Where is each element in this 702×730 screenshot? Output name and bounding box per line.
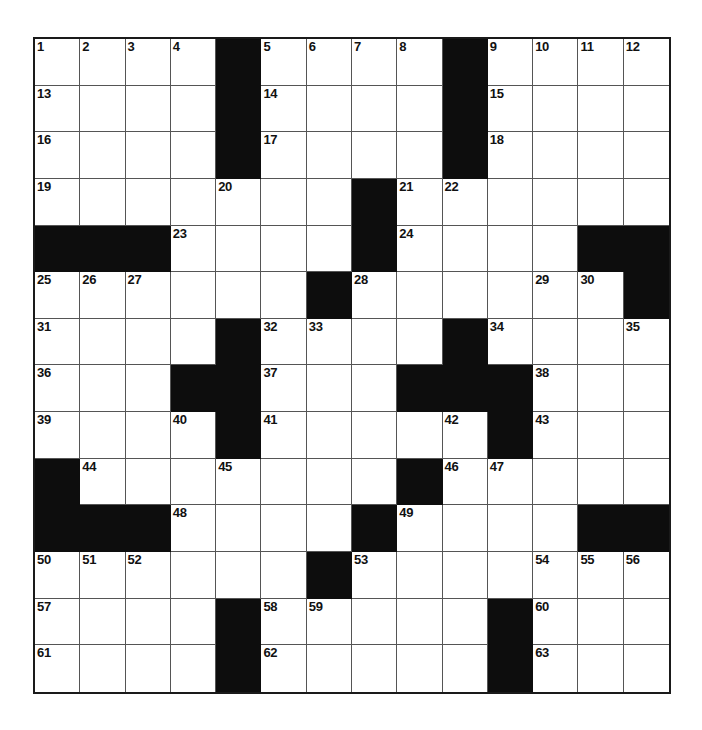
grid-cell[interactable]: 60: [533, 599, 578, 646]
grid-cell[interactable]: 15: [488, 86, 533, 133]
grid-cell[interactable]: 43: [533, 412, 578, 459]
grid-cell[interactable]: 6: [307, 39, 352, 86]
grid-cell[interactable]: [578, 132, 623, 179]
grid-cell[interactable]: 49: [397, 505, 442, 552]
grid-cell[interactable]: [578, 459, 623, 506]
grid-cell[interactable]: [578, 319, 623, 366]
grid-cell[interactable]: [261, 179, 306, 226]
grid-cell[interactable]: 3: [126, 39, 171, 86]
grid-cell[interactable]: [397, 599, 442, 646]
grid-cell[interactable]: 42: [443, 412, 488, 459]
grid-cell[interactable]: [533, 459, 578, 506]
grid-cell[interactable]: [261, 272, 306, 319]
grid-cell[interactable]: 54: [533, 552, 578, 599]
grid-cell[interactable]: 1: [35, 39, 80, 86]
grid-cell[interactable]: 38: [533, 365, 578, 412]
grid-cell[interactable]: [488, 179, 533, 226]
grid-cell[interactable]: [171, 645, 216, 692]
grid-cell[interactable]: 33: [307, 319, 352, 366]
grid-cell[interactable]: 19: [35, 179, 80, 226]
grid-cell[interactable]: 25: [35, 272, 80, 319]
grid-cell[interactable]: 55: [578, 552, 623, 599]
grid-cell[interactable]: [533, 132, 578, 179]
grid-cell[interactable]: [307, 86, 352, 133]
grid-cell[interactable]: 37: [261, 365, 306, 412]
grid-cell[interactable]: [80, 365, 125, 412]
grid-cell[interactable]: 2: [80, 39, 125, 86]
grid-cell[interactable]: [126, 412, 171, 459]
grid-cell[interactable]: 12: [624, 39, 669, 86]
grid-cell[interactable]: 31: [35, 319, 80, 366]
grid-cell[interactable]: [216, 552, 261, 599]
grid-cell[interactable]: [533, 179, 578, 226]
grid-cell[interactable]: 22: [443, 179, 488, 226]
grid-cell[interactable]: [624, 86, 669, 133]
crossword-grid[interactable]: 1234567891011121314151617181920212223242…: [33, 37, 671, 694]
grid-cell[interactable]: [171, 179, 216, 226]
grid-cell[interactable]: 13: [35, 86, 80, 133]
grid-cell[interactable]: [533, 319, 578, 366]
grid-cell[interactable]: [397, 86, 442, 133]
grid-cell[interactable]: [307, 132, 352, 179]
grid-cell[interactable]: 30: [578, 272, 623, 319]
grid-cell[interactable]: 16: [35, 132, 80, 179]
grid-cell[interactable]: [171, 599, 216, 646]
grid-cell[interactable]: [578, 179, 623, 226]
grid-cell[interactable]: 53: [352, 552, 397, 599]
grid-cell[interactable]: 51: [80, 552, 125, 599]
grid-cell[interactable]: [126, 645, 171, 692]
grid-cell[interactable]: [443, 552, 488, 599]
grid-cell[interactable]: 52: [126, 552, 171, 599]
grid-cell[interactable]: 4: [171, 39, 216, 86]
grid-cell[interactable]: [533, 505, 578, 552]
grid-cell[interactable]: 5: [261, 39, 306, 86]
grid-cell[interactable]: 21: [397, 179, 442, 226]
grid-cell[interactable]: [171, 459, 216, 506]
grid-cell[interactable]: 59: [307, 599, 352, 646]
grid-cell[interactable]: [488, 552, 533, 599]
grid-cell[interactable]: 39: [35, 412, 80, 459]
grid-cell[interactable]: 45: [216, 459, 261, 506]
grid-cell[interactable]: [624, 365, 669, 412]
grid-cell[interactable]: [352, 132, 397, 179]
grid-cell[interactable]: 9: [488, 39, 533, 86]
grid-cell[interactable]: 61: [35, 645, 80, 692]
grid-cell[interactable]: 18: [488, 132, 533, 179]
grid-cell[interactable]: [352, 645, 397, 692]
grid-cell[interactable]: [578, 86, 623, 133]
grid-cell[interactable]: [307, 459, 352, 506]
grid-cell[interactable]: [216, 272, 261, 319]
grid-cell[interactable]: 34: [488, 319, 533, 366]
grid-cell[interactable]: [171, 319, 216, 366]
grid-cell[interactable]: [397, 272, 442, 319]
grid-cell[interactable]: [443, 505, 488, 552]
grid-cell[interactable]: [171, 132, 216, 179]
grid-cell[interactable]: [171, 272, 216, 319]
grid-cell[interactable]: [352, 86, 397, 133]
grid-cell[interactable]: 46: [443, 459, 488, 506]
grid-cell[interactable]: [443, 272, 488, 319]
grid-cell[interactable]: [397, 552, 442, 599]
grid-cell[interactable]: [397, 132, 442, 179]
grid-cell[interactable]: [80, 599, 125, 646]
grid-cell[interactable]: [307, 365, 352, 412]
grid-cell[interactable]: [397, 412, 442, 459]
grid-cell[interactable]: 41: [261, 412, 306, 459]
grid-cell[interactable]: [352, 599, 397, 646]
grid-cell[interactable]: [80, 179, 125, 226]
grid-cell[interactable]: [578, 599, 623, 646]
grid-cell[interactable]: [261, 552, 306, 599]
grid-cell[interactable]: [80, 645, 125, 692]
grid-cell[interactable]: [307, 645, 352, 692]
grid-cell[interactable]: 56: [624, 552, 669, 599]
grid-cell[interactable]: [443, 599, 488, 646]
grid-cell[interactable]: [488, 272, 533, 319]
grid-cell[interactable]: [80, 319, 125, 366]
grid-cell[interactable]: 50: [35, 552, 80, 599]
grid-cell[interactable]: [216, 505, 261, 552]
grid-cell[interactable]: 24: [397, 226, 442, 273]
grid-cell[interactable]: 47: [488, 459, 533, 506]
grid-cell[interactable]: 29: [533, 272, 578, 319]
grid-cell[interactable]: 36: [35, 365, 80, 412]
grid-cell[interactable]: [624, 599, 669, 646]
